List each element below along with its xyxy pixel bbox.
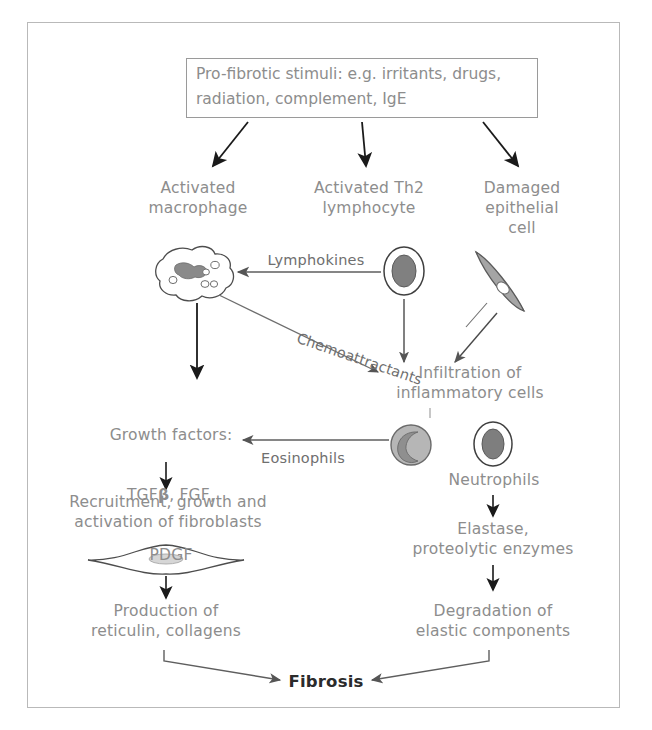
edge-production-to-fibrosis — [164, 650, 280, 680]
node-production-reticulin-collagens: Production of reticulin, collagens — [56, 601, 276, 641]
edge-stimuli-to-lymphocyte — [362, 122, 366, 166]
node-recruitment-fibroblasts: Recruitment, growth and activation of fi… — [52, 492, 284, 532]
node-neutrophils: Neutrophils — [433, 470, 555, 490]
edge-chemoattractants-epithelial — [466, 303, 487, 327]
node-infiltration-inflammatory-cells: Infiltration of inflammatory cells — [370, 363, 570, 403]
node-fibrosis: Fibrosis — [286, 672, 366, 692]
node-damaged-epithelial-cell: Damaged epithelial cell — [462, 178, 582, 238]
edge-stimuli-to-epithelial — [483, 122, 518, 166]
diagram-page: Pro-fibrotic stimuli: e.g. irritants, dr… — [0, 0, 652, 730]
node-elastase: Elastase, proteolytic enzymes — [385, 519, 601, 559]
node-activated-macrophage: Activated macrophage — [118, 178, 278, 218]
node-activated-th2-lymphocyte: Activated Th2 lymphocyte — [294, 178, 444, 218]
edge-degradation-to-fibrosis — [372, 650, 489, 680]
neutrophil-cell-icon — [474, 422, 512, 466]
growth-factors-line-3: PDGF — [86, 545, 256, 565]
edge-label-lymphokines: Lymphokines — [246, 250, 386, 270]
eosinophil-cell-icon — [391, 425, 431, 465]
lymphocyte-cell-icon — [384, 247, 424, 295]
epithelial-cell-icon — [476, 252, 524, 311]
edge-stimuli-to-macrophage — [213, 122, 248, 166]
edge-label-eosinophils: Eosinophils — [243, 448, 363, 468]
growth-factors-line-1: Growth factors: — [86, 425, 256, 445]
stimuli-text: Pro-fibrotic stimuli: e.g. irritants, dr… — [196, 62, 530, 112]
edge-epithelial-to-infiltration — [455, 313, 497, 362]
node-degradation-elastic-components: Degradation of elastic components — [385, 601, 601, 641]
macrophage-cell-icon — [156, 247, 234, 301]
